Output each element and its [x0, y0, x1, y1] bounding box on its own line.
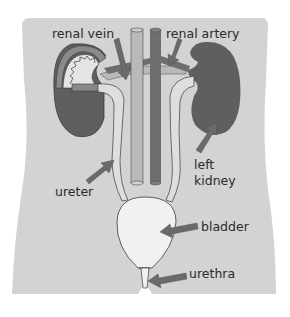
urinary-system-diagram: renal vein renal artery left kidney uret…	[0, 0, 290, 317]
label-bladder: bladder	[201, 220, 249, 234]
diagram-canvas	[0, 0, 290, 317]
aorta	[150, 28, 161, 185]
label-urethra: urethra	[189, 267, 235, 281]
label-ureter: ureter	[55, 185, 93, 199]
label-left-kidney-line2: kidney	[194, 174, 236, 188]
inferior-vena-cava	[131, 28, 143, 185]
label-renal-vein: renal vein	[52, 27, 114, 41]
label-renal-artery: renal artery	[166, 27, 240, 41]
label-left-kidney-line1: left	[194, 158, 214, 172]
